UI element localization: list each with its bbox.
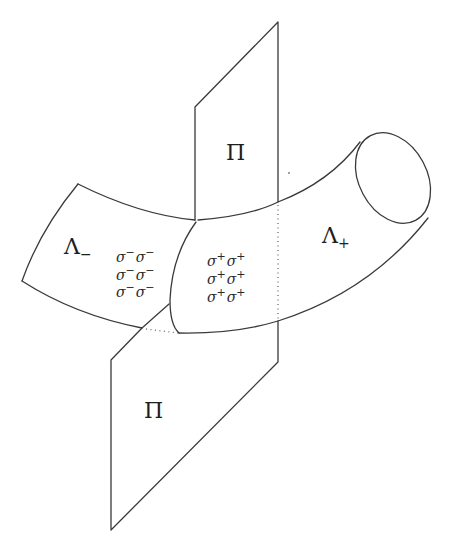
upper-plane-label: Π	[226, 140, 245, 165]
sigma-minus-grid: σ−σ− σ−σ− σ−σ−	[116, 246, 155, 300]
lambda-plus-label: Λ+	[321, 223, 350, 251]
sigma-plus-grid: σ+σ+ σ+σ+ σ+σ+	[207, 250, 246, 305]
stray-dot	[288, 172, 290, 174]
tube-top-edge-left	[78, 184, 195, 220]
tube-opening-ellipse	[340, 120, 445, 237]
upper-plane	[195, 22, 278, 220]
svg-text:σ+σ+: σ+σ+	[207, 286, 246, 305]
lower-plane	[111, 304, 278, 530]
svg-text:σ−σ−: σ−σ−	[116, 281, 155, 300]
svg-text:σ+σ+: σ+σ+	[207, 250, 246, 269]
cross-section-curve	[170, 222, 196, 333]
lambda-minus-label: Λ−	[63, 234, 92, 262]
tube-top-edge-right	[198, 142, 360, 220]
tube-left-end	[22, 184, 78, 281]
tube-plane-intersection-diagram: Π Π Λ− Λ+ σ−σ− σ−σ− σ−σ− σ+σ+ σ+σ+ σ+σ+	[0, 0, 459, 549]
svg-text:σ−σ−: σ−σ−	[116, 246, 155, 265]
svg-text:σ+σ+: σ+σ+	[207, 268, 246, 287]
hidden-edge-bottom	[146, 329, 178, 333]
lower-plane-label: Π	[144, 398, 163, 423]
